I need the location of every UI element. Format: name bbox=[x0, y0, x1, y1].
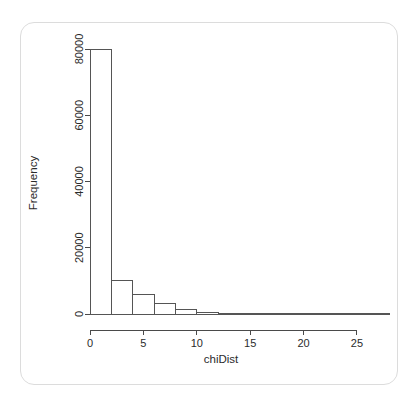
x-tick-label: 0 bbox=[87, 337, 93, 349]
y-axis-title: Frequency bbox=[27, 156, 39, 211]
histogram-bar bbox=[240, 313, 261, 314]
x-tick-label: 20 bbox=[297, 337, 309, 349]
histogram-bar bbox=[133, 294, 154, 314]
histogram-bars bbox=[90, 49, 389, 314]
x-axis-title: chiDist bbox=[204, 353, 239, 365]
histogram-bar bbox=[368, 313, 389, 314]
histogram-bar bbox=[261, 313, 282, 314]
x-tick-label: 15 bbox=[244, 337, 256, 349]
y-tick-label: 60000 bbox=[73, 100, 85, 131]
histogram-bar bbox=[197, 312, 218, 314]
x-tick-label: 10 bbox=[191, 337, 203, 349]
plot-frame: 020000400006000080000 0510152025 Frequen… bbox=[20, 22, 398, 385]
x-tick-label: 5 bbox=[140, 337, 146, 349]
y-tick-label: 0 bbox=[73, 311, 85, 317]
y-tick-label: 80000 bbox=[73, 34, 85, 65]
histogram-bar bbox=[218, 313, 239, 314]
histogram-plot: 020000400006000080000 0510152025 Frequen… bbox=[21, 23, 397, 384]
histogram-bar bbox=[346, 313, 367, 314]
y-tick-label: 20000 bbox=[73, 232, 85, 263]
histogram-bar bbox=[111, 280, 132, 314]
y-tick-labels: 020000400006000080000 bbox=[73, 34, 85, 317]
histogram-bar bbox=[282, 313, 303, 314]
x-axis-line bbox=[90, 330, 357, 335]
histogram-bar bbox=[175, 309, 196, 314]
x-tick-label: 25 bbox=[351, 337, 363, 349]
screenshot-canvas: 020000400006000080000 0510152025 Frequen… bbox=[0, 0, 418, 404]
x-axis bbox=[90, 330, 357, 335]
histogram-bar bbox=[90, 49, 111, 314]
histogram-bar bbox=[304, 313, 325, 314]
y-tick-label: 40000 bbox=[73, 166, 85, 197]
y-axis-line bbox=[85, 49, 90, 314]
y-axis bbox=[85, 49, 90, 314]
histogram-bar bbox=[325, 313, 346, 314]
histogram-bar bbox=[154, 303, 175, 314]
x-tick-labels: 0510152025 bbox=[87, 337, 363, 349]
